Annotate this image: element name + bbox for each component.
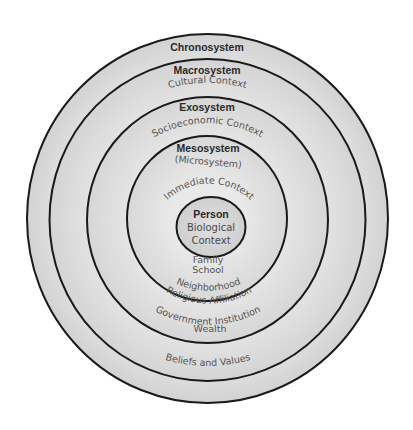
- person-item-1: Biological: [187, 222, 235, 233]
- person-label: Person: [193, 208, 229, 220]
- person-item-2: Context: [191, 235, 230, 246]
- ecological-systems-diagram: Chronosystem Macrosystem Cultural Contex…: [0, 0, 413, 430]
- mesosystem-bottom-item-school: School: [192, 264, 224, 275]
- chronosystem-label: Chronosystem: [170, 41, 244, 53]
- exosystem-bottom-item-2: Wealth: [194, 323, 227, 334]
- mesosystem-label: Mesosystem: [176, 142, 239, 154]
- exosystem-label: Exosystem: [179, 101, 234, 113]
